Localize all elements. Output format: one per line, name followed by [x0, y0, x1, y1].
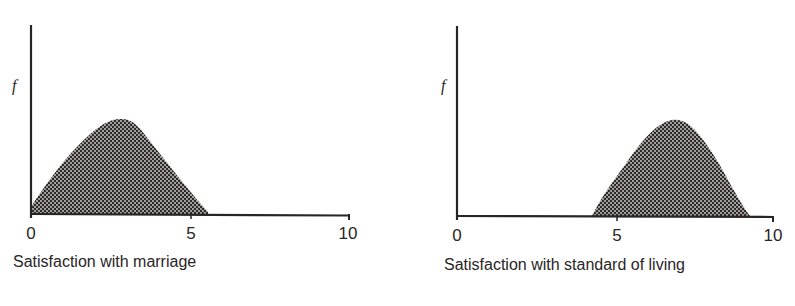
- left-x-axis-title: Satisfaction with marriage: [13, 253, 196, 271]
- left-tick-label-0: 0: [26, 224, 35, 244]
- right-tick-label-0: 0: [452, 226, 461, 246]
- left-y-axis-label: f: [12, 77, 16, 95]
- right-y-axis-label: f: [441, 77, 445, 95]
- right-tick-label-10: 10: [764, 226, 783, 246]
- left-tick-label-10: 10: [339, 224, 358, 244]
- right-distribution-area: [592, 120, 750, 216]
- left-x-axis: [30, 214, 349, 216]
- right-tick-label-5: 5: [612, 226, 621, 246]
- left-chart: [30, 25, 349, 220]
- left-distribution-area: [31, 119, 208, 214]
- right-x-axis: [456, 216, 773, 217]
- left-tick-label-5: 5: [186, 224, 195, 244]
- right-x-axis-title: Satisfaction with standard of living: [444, 256, 685, 274]
- right-chart: [456, 26, 773, 222]
